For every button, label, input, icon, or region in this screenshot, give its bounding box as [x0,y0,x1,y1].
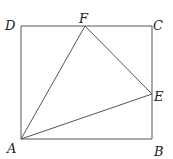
diagram-canvas: ABCDEF [0,0,173,159]
segment-fe [85,26,152,94]
segment-af [21,26,85,139]
point-label-a: A [6,141,16,156]
point-label-b: B [153,144,164,159]
point-label-e: E [153,89,164,104]
point-label-f: F [78,11,89,26]
point-label-c: C [153,18,163,33]
segment-ae [21,94,152,139]
geometry-figure: ABCDEF [0,0,173,159]
point-label-d: D [4,18,16,33]
segments-group [21,26,152,139]
